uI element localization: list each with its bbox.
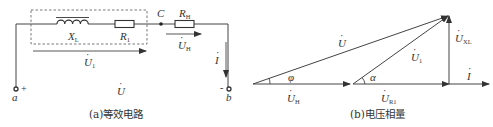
voltage-phasor-diagram: φ α U · U1 · UXL · I · UH · UR1 · (b)电压相… xyxy=(253,16,489,120)
figure-canvas: XL R1 C RH UH · U1 · I · a b + - U · (a)… xyxy=(0,0,493,127)
plus-sign: + xyxy=(21,83,27,94)
u1-voltage-dot: · xyxy=(86,49,89,60)
resistor-rh xyxy=(175,21,194,28)
total-voltage-dot: · xyxy=(119,78,122,89)
alpha-angle-arc xyxy=(362,78,365,85)
u-phasor xyxy=(253,16,448,84)
equivalent-circuit: XL R1 C RH UH · U1 · I · a b + - U · (a)… xyxy=(12,7,232,120)
node-c-label: C xyxy=(157,7,165,19)
minus-sign: - xyxy=(220,82,223,93)
uh-voltage-dot: · xyxy=(180,32,183,43)
terminal-b-label: b xyxy=(226,91,232,103)
alpha-angle-label: α xyxy=(370,71,376,83)
resistor-r1-label: R1 xyxy=(119,30,130,43)
uh-phasor-dot: · xyxy=(289,85,292,96)
u1-phasor xyxy=(353,16,448,84)
resistor-r1 xyxy=(115,21,134,28)
resistor-rh-label: RH xyxy=(178,7,191,20)
inductor-xl xyxy=(56,18,89,25)
current-dot: · xyxy=(216,47,219,58)
uxl-phasor-dot: · xyxy=(457,25,460,36)
panel-a-caption: (a)等效电路 xyxy=(89,108,144,120)
node-c-dot xyxy=(159,22,163,26)
u1-phasor-dot: · xyxy=(413,44,416,55)
ur1-phasor-dot: · xyxy=(383,85,386,96)
current-phasor-dot: · xyxy=(468,63,471,74)
u-phasor-dot: · xyxy=(340,30,343,41)
phi-angle-label: φ xyxy=(288,71,294,83)
phi-angle-arc xyxy=(269,78,270,84)
terminal-a-label: a xyxy=(12,91,18,103)
inductor-label: XL xyxy=(67,30,79,43)
panel-b-caption: (b)电压相量 xyxy=(350,108,406,120)
